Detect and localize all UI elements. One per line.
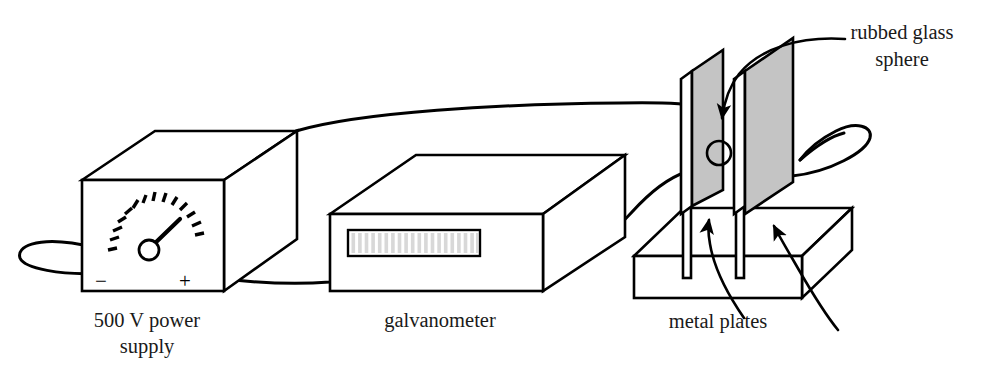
- wire-power-supply-top-to-plate: [296, 103, 700, 131]
- plate-front-face: [745, 38, 793, 214]
- plate-rear-edge-strip: [681, 71, 692, 214]
- label-power-supply-line1: 500 V power: [94, 309, 200, 332]
- terminal-negative-label: −: [95, 269, 107, 293]
- meter-tick: [195, 233, 204, 235]
- meter-hub-icon: [139, 240, 159, 260]
- label-rubbed-glass-line1: rubbed glass: [850, 21, 953, 44]
- power-supply-unit[interactable]: − +: [82, 131, 297, 293]
- label-galvanometer: galvanometer: [384, 309, 496, 332]
- meter-tick: [153, 192, 155, 201]
- meter-tick: [108, 248, 117, 250]
- wire-plate-right-loop-tail: [800, 133, 844, 160]
- galvanometer-front-face: [330, 214, 543, 291]
- apparatus-diagram: − +: [0, 0, 982, 391]
- plate-rear-face: [692, 50, 723, 206]
- galvanometer-display: [348, 230, 480, 256]
- plate-front-edge-strip: [734, 71, 745, 214]
- diagram-root: − +: [0, 0, 982, 391]
- terminal-positive-label: +: [179, 269, 191, 293]
- label-rubbed-glass-line2: sphere: [875, 48, 929, 71]
- galvanometer-unit[interactable]: [330, 155, 625, 291]
- label-power-supply-line2: supply: [120, 335, 175, 358]
- stand-base-front-face: [634, 256, 802, 298]
- metal-plates-assembly[interactable]: [634, 38, 852, 298]
- label-metal-plates: metal plates: [669, 310, 767, 333]
- wire-plate-right-loop: [792, 126, 870, 176]
